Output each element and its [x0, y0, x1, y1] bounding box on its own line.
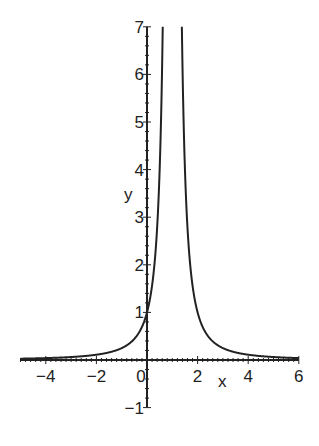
- y-tick-label: −1: [125, 399, 144, 418]
- x-tick-label: 2: [193, 367, 202, 386]
- x-tick-label: 0: [136, 367, 145, 386]
- function-plot: −4−20246−11234567 x y: [0, 0, 319, 446]
- y-tick-label: 7: [135, 18, 144, 37]
- y-tick-label: 5: [135, 113, 144, 132]
- y-tick-label: 3: [135, 208, 144, 227]
- axis-ticks: [21, 27, 299, 408]
- y-axis-label: y: [124, 185, 133, 204]
- y-tick-label: 4: [135, 161, 144, 180]
- x-tick-label: 6: [294, 367, 303, 386]
- y-tick-label: 6: [135, 65, 144, 84]
- x-axis-label: x: [218, 372, 227, 391]
- x-tick-label: −2: [87, 367, 106, 386]
- x-tick-label: 4: [243, 367, 252, 386]
- axes: [21, 27, 299, 408]
- x-tick-label: −4: [36, 367, 55, 386]
- curve-right-branch: [182, 27, 299, 358]
- y-tick-label: 2: [135, 256, 144, 275]
- y-tick-label: 1: [135, 303, 144, 322]
